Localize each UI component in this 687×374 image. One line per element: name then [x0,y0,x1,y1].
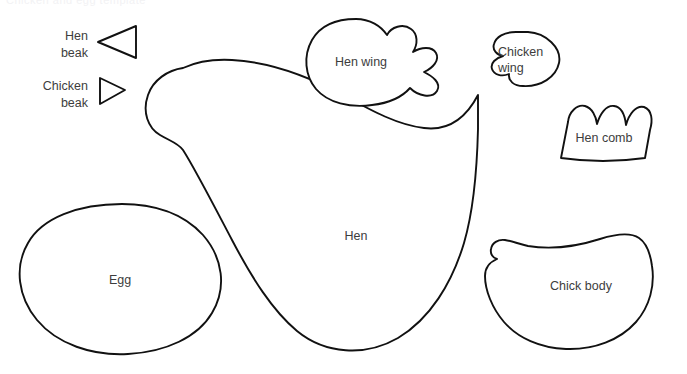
hen-beak-callout-label: Hen beak [10,28,88,62]
hen-beak-label-line2: beak [10,45,88,62]
hen-comb-label: Hen comb [565,130,643,146]
chicken-beak-callout-label: Chicken beak [6,78,88,112]
chicken-wing-label: Chicken wing [498,44,562,76]
hen-wing-label: Hen wing [321,54,401,70]
chicken-beak-shape [100,78,125,104]
chicken-beak-label-line2: beak [6,95,88,112]
chicken-wing-label-line1: Chicken [498,44,562,60]
egg-label: Egg [90,272,150,288]
chicken-wing-label-line2: wing [498,60,562,76]
hen-label: Hen [326,228,386,244]
hen-beak-shape [98,26,136,58]
pattern-template-page: Chicken and egg template Hen beak Chicke… [0,0,687,374]
chick-body-label: Chick body [536,278,626,294]
chicken-beak-label-line1: Chicken [6,78,88,95]
hen-beak-label-line1: Hen [10,28,88,45]
